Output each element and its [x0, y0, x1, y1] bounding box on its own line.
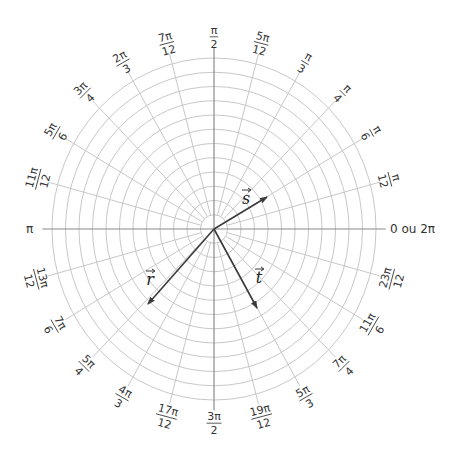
radial-line [170, 54, 211, 215]
angle-label-denominator: 12 [156, 416, 173, 432]
angle-label: π3 [294, 49, 315, 77]
angle-label: 19π12 [248, 401, 276, 433]
angle-label: π4 [330, 81, 355, 106]
radial-line [217, 54, 258, 215]
angle-label-denominator: 6 [358, 130, 373, 143]
angle-label-denominator: 12 [255, 416, 272, 432]
angle-label: 2π3 [110, 48, 136, 79]
angle-label-denominator: 6 [372, 324, 387, 337]
angle-label: π2 [210, 24, 219, 51]
radial-line [48, 182, 201, 225]
angle-label-zero: 0 ou 2π [390, 222, 435, 236]
angle-label-denominator: 2 [211, 38, 218, 51]
angle-label: π6 [357, 123, 385, 144]
radial-line [227, 233, 380, 276]
angle-label-pi: π [26, 222, 33, 236]
angle-label: 13π12 [20, 266, 52, 294]
angle-label: 5π6 [41, 120, 72, 146]
angle-label: 11π6 [357, 310, 391, 342]
angle-label: 5π12 [250, 29, 271, 59]
angle-label-denominator: 3 [295, 62, 308, 77]
angle-label-denominator: 2 [211, 424, 218, 437]
angle-label-numerator: π [211, 24, 218, 37]
angle-label-denominator: 12 [37, 173, 53, 190]
polar-grid-diagram: π12π6π4π35π12π27π122π33π45π611π1213π127π… [0, 0, 449, 459]
angle-label-denominator: 6 [55, 130, 70, 143]
angle-label-numerator: 3π [207, 410, 221, 423]
angle-label-denominator: 6 [41, 324, 56, 337]
angle-label-denominator: 12 [21, 273, 37, 290]
vector-r-label: r [146, 270, 155, 289]
radial-line [170, 243, 211, 404]
angle-label: 7π12 [156, 29, 177, 59]
radial-line [217, 243, 258, 404]
angle-label: 4π3 [109, 382, 135, 413]
angle-label-denominator: 3 [120, 62, 133, 77]
vector-t-arrow [214, 229, 257, 308]
angle-label: 23π12 [376, 266, 408, 294]
angle-label-denominator: 4 [342, 365, 356, 379]
angle-label: 5π3 [293, 382, 319, 413]
angle-label: 17π12 [152, 401, 180, 433]
angle-label-denominator: 12 [374, 173, 390, 190]
angle-label-denominator: 12 [251, 43, 268, 59]
angle-label-denominator: 12 [391, 273, 407, 290]
angle-label-denominator: 3 [112, 396, 125, 411]
angle-label: 7π6 [39, 313, 70, 339]
angle-label-numerator: π [389, 173, 403, 183]
angle-label-denominator: 3 [303, 396, 316, 411]
angle-label: 11π12 [23, 166, 55, 194]
angle-label-denominator: 4 [72, 365, 86, 379]
angle-label: 3π2 [207, 410, 222, 437]
angle-label-denominator: 12 [160, 43, 177, 59]
angle-label: π12 [374, 169, 404, 190]
